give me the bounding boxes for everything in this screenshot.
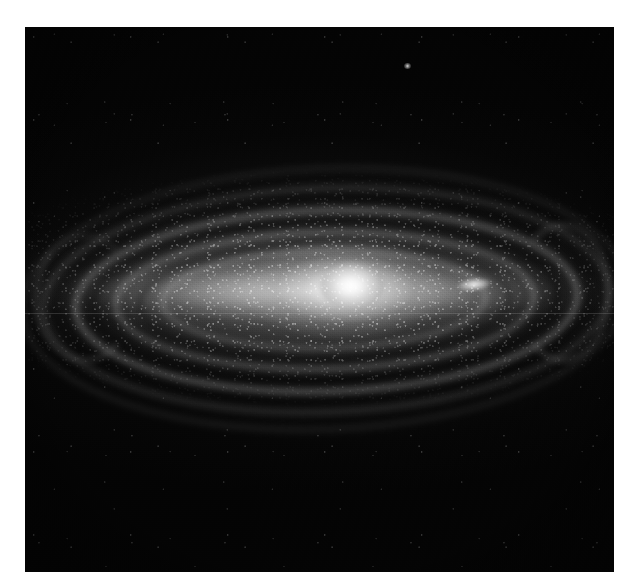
galaxy-photograph-plate [25,27,614,572]
page-canvas [0,0,642,587]
spiral-arm-tip-east [515,223,611,362]
spiral-arm-tip-west [34,234,136,362]
scan-line-artifact [25,313,614,314]
foreground-star-bright [404,63,411,69]
